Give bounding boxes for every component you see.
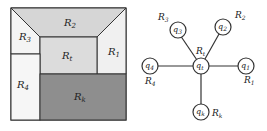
svg-text:R2: R2 <box>234 10 246 21</box>
svg-text:Rt: Rt <box>195 46 206 57</box>
svg-text:R3: R3 <box>157 12 169 23</box>
region-map: R2 R3 Rt R1 R4 Rk <box>11 8 126 120</box>
svg-text:Rk: Rk <box>211 108 223 119</box>
svg-text:R1: R1 <box>243 75 255 86</box>
svg-text:R4: R4 <box>144 76 156 87</box>
figure: R2 R3 Rt R1 R4 Rk qt q3 q2 q4 q1 qk Rt R… <box>0 0 267 131</box>
